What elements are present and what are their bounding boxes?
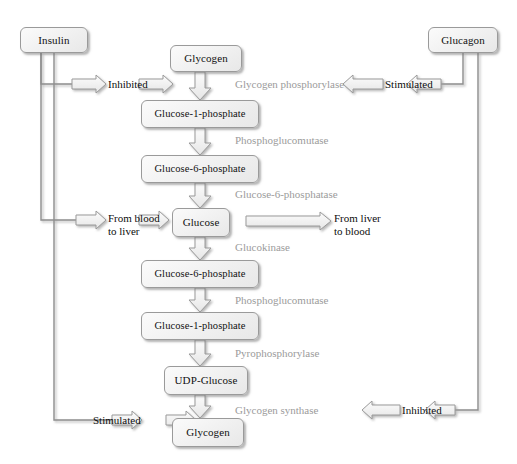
node-glycogen-bottom[interactable]: Glycogen [172,418,244,447]
arrow-stimulated-to-phosphorylase [343,75,383,93]
node-glucagon-label: Glucagon [441,34,485,46]
node-insulin-label: Insulin [38,34,69,46]
node-glucose-6-phosphate-top[interactable]: Glucose-6-phosphate [141,155,259,183]
label-glucagon-inhibited: Inhibited [402,404,442,417]
node-glucagon[interactable]: Glucagon [428,27,498,53]
label-glucokinase: Glucokinase [235,241,290,254]
arrow-udp-to-glycogen [189,395,211,418]
label-glucose-6-phosphatase: Glucose-6-phosphatase [235,188,338,201]
arrow-glucose-to-liver-blood [246,212,331,230]
glucagon-upper-stem [441,53,463,84]
node-glucose-6-phosphate-bottom[interactable]: Glucose-6-phosphate [141,260,259,288]
node-glucose-1-phosphate-top[interactable]: Glucose-1-phosphate [141,100,259,128]
arrow-g6p-to-glucose [189,183,211,208]
node-insulin[interactable]: Insulin [20,27,88,53]
arrow-glucose-to-g6p [189,237,211,260]
label-pyrophosphorylase: Pyrophosphorylase [235,347,319,360]
node-udp-glucose[interactable]: UDP-Glucose [164,366,248,395]
diagram-canvas: Insulin Glucagon Glycogen Glucose-1-phos… [0,0,517,464]
node-glucose-6-phosphate-bottom-label: Glucose-6-phosphate [154,268,245,280]
node-glucose-1-phosphate-bottom-label: Glucose-1-phosphate [154,320,245,332]
node-glucose[interactable]: Glucose [172,208,230,237]
node-glycogen-bottom-label: Glycogen [186,426,230,438]
insulin-blood-stem [41,53,76,220]
arrow-glycogen-to-g1p [189,72,211,100]
node-glucose-1-phosphate-top-label: Glucose-1-phosphate [154,108,245,120]
label-from-blood-to-liver: From blood to liver [108,212,170,237]
node-glycogen-top-label: Glycogen [184,52,228,64]
glucagon-lower-stem [455,53,478,410]
arrow-g1p-to-udp [189,340,211,366]
arrow-g6p-to-g1p [189,288,211,312]
node-glucose-6-phosphate-top-label: Glucose-6-phosphate [154,163,245,175]
arrow-g1p-to-g6p [189,128,211,155]
from-liver-to-blood-line1: From liver [334,212,381,224]
label-glycogen-phosphorylase: Glycogen phosphorylase [235,78,344,91]
label-glycogen-synthase: Glycogen synthase [235,404,318,417]
insulin-upper-stem [41,53,72,84]
node-glycogen-top[interactable]: Glycogen [170,45,242,72]
insulin-lower-stem [54,53,112,420]
node-glucose-label: Glucose [183,216,220,228]
label-insulin-inhibited: Inhibited [108,78,148,91]
arrow-into-blood-label [76,211,106,229]
from-blood-to-liver-line1: From blood [108,212,160,224]
label-phosphoglucomutase-bottom: Phosphoglucomutase [235,294,329,307]
from-blood-to-liver-line2: to liver [108,225,139,237]
label-insulin-stimulated: Stimulated [93,414,141,427]
from-liver-to-blood-line2: to blood [334,225,370,237]
label-phosphoglucomutase-top: Phosphoglucomutase [235,134,329,147]
label-from-liver-to-blood: From liver to blood [334,212,396,237]
arrow-insulin-inhibited [72,75,106,93]
node-udp-glucose-label: UDP-Glucose [175,374,238,386]
label-glucagon-stimulated: Stimulated [385,78,433,91]
node-glucose-1-phosphate-bottom[interactable]: Glucose-1-phosphate [141,312,259,340]
arrow-inhibited-to-synthase [362,401,400,419]
diagram-connectors [0,0,517,464]
